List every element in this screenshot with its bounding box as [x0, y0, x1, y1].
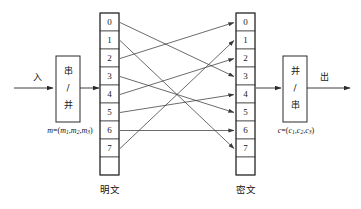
plaintext-formula-close: ) — [90, 126, 93, 135]
plaintext-cell-blank — [100, 157, 119, 175]
plaintext-cell-4-label: 4 — [107, 89, 112, 99]
ciphertext-formula-close: ) — [312, 126, 315, 135]
plaintext-register: 0 1 2 3 4 5 6 7 明文 — [100, 13, 120, 195]
serial-to-parallel-box-group: 串 / 并 — [56, 56, 80, 122]
parallel-to-serial-box-group: 并 / 串 — [283, 56, 307, 122]
input-label: 入 — [33, 72, 42, 82]
parallel-to-serial-line3: 串 — [291, 100, 300, 110]
permutation-wires — [120, 23, 234, 149]
plaintext-cell-2-label: 2 — [107, 53, 112, 63]
ciphertext-formula-group: c=(c1,c2,c3) — [278, 126, 315, 135]
ciphertext-cell-2-label: 2 — [243, 53, 248, 63]
ciphertext-cell-4-label: 4 — [243, 89, 248, 99]
ciphertext-register: 0 1 2 3 4 5 6 7 密文 — [236, 13, 256, 195]
output-label: 出 — [320, 71, 329, 82]
perm-wire-4-to-2 — [120, 59, 234, 95]
perm-wire-2-to-0 — [120, 23, 234, 59]
permutation-cipher-diagram: 入 串 / 并 m=(m1,m2,m3) — [0, 0, 361, 209]
ciphertext-cell-7-label: 7 — [243, 143, 248, 153]
ciphertext-cell-5-label: 5 — [243, 107, 248, 117]
ciphertext-cell-1-label: 1 — [243, 35, 248, 45]
parallel-to-serial-line1: 并 — [291, 65, 300, 76]
plaintext-cell-1-label: 1 — [107, 35, 112, 45]
svg-text:m=(m1,m2,m3): m=(m1,m2,m3) — [47, 126, 93, 135]
perm-wire-5-to-4 — [120, 95, 234, 113]
ciphertext-cell-blank — [236, 157, 255, 175]
plaintext-cell-7-label: 7 — [107, 143, 112, 153]
plaintext-formula-group: m=(m1,m2,m3) — [47, 126, 93, 135]
plaintext-cell-5-label: 5 — [107, 107, 112, 117]
plaintext-cell-3-label: 3 — [107, 71, 112, 81]
perm-wire-0-to-3 — [120, 23, 234, 77]
plaintext-cell-6-label: 6 — [107, 125, 112, 135]
svg-text:c=(c1,c2,c3): c=(c1,c2,c3) — [278, 126, 315, 135]
serial-to-parallel-line1: 串 — [64, 66, 73, 76]
plaintext-column-label: 明文 — [100, 184, 120, 195]
ciphertext-cell-3-label: 3 — [243, 71, 248, 81]
plaintext-cell-0-label: 0 — [107, 17, 112, 27]
input-wire-group: 入 — [14, 72, 53, 89]
output-wire-group: 出 — [307, 71, 350, 89]
serial-to-parallel-line3: 并 — [64, 99, 73, 110]
ciphertext-cell-6-label: 6 — [243, 125, 248, 135]
ciphertext-cell-0-label: 0 — [243, 17, 248, 27]
diagram-canvas: 入 串 / 并 m=(m1,m2,m3) — [0, 0, 361, 209]
ciphertext-column-label: 密文 — [236, 184, 256, 195]
